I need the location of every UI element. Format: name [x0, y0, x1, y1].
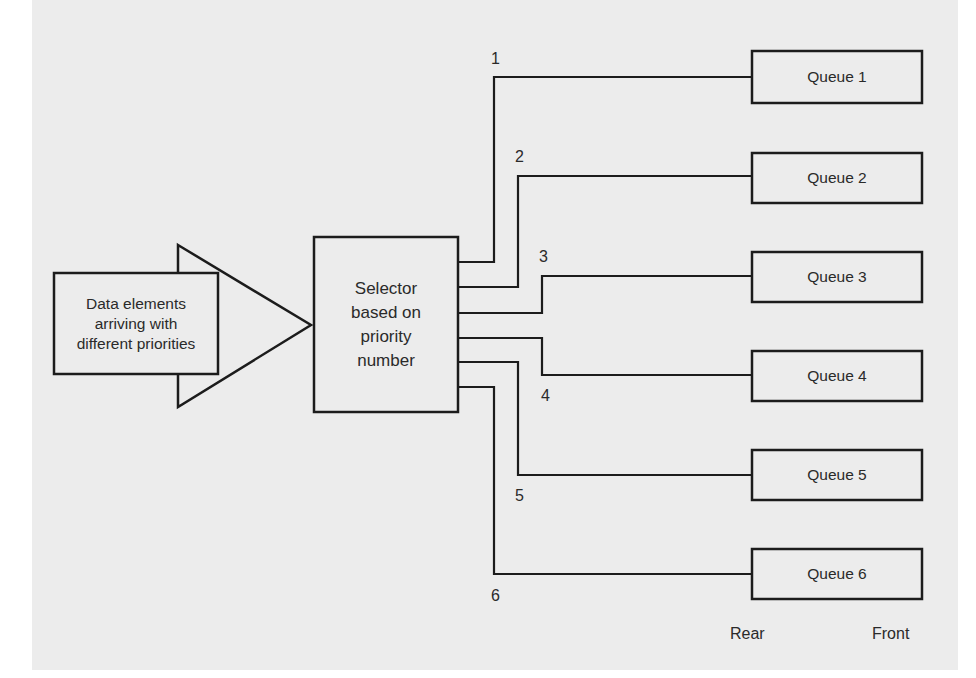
selector-label: Selector based on priority number	[314, 237, 458, 412]
queue-label-2: Queue 2	[752, 153, 922, 203]
connector-4	[458, 338, 752, 375]
channel-number-5: 5	[515, 487, 524, 505]
connector-1	[458, 77, 752, 262]
queue-label-4: Queue 4	[752, 351, 922, 401]
channel-number-1: 1	[491, 50, 500, 68]
input-label-line: arriving with	[95, 314, 178, 334]
connector-6	[458, 387, 752, 574]
front-label: Front	[872, 624, 909, 644]
channel-number-3: 3	[539, 248, 548, 266]
channel-number-4: 4	[541, 387, 550, 405]
connector-5	[458, 362, 752, 475]
selector-label-line: priority	[360, 325, 411, 349]
connector-3	[458, 276, 752, 313]
channel-number-2: 2	[515, 148, 524, 166]
channel-number-6: 6	[491, 587, 500, 605]
rear-label: Rear	[730, 624, 765, 644]
input-label: Data elements arriving with different pr…	[54, 273, 218, 374]
input-label-line: Data elements	[86, 294, 186, 314]
queue-label-1: Queue 1	[752, 51, 922, 103]
selector-label-line: Selector	[355, 277, 417, 301]
queue-label-3: Queue 3	[752, 252, 922, 302]
selector-label-line: number	[357, 349, 415, 373]
queue-label-5: Queue 5	[752, 450, 922, 500]
selector-label-line: based on	[351, 301, 421, 325]
queue-label-6: Queue 6	[752, 549, 922, 599]
input-label-line: different priorities	[77, 334, 196, 354]
connector-2	[458, 176, 752, 287]
